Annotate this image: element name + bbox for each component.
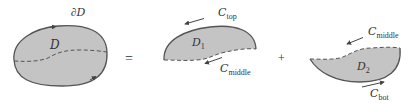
c-bot-label: Cbot bbox=[370, 87, 389, 102]
c-top-arrow-icon bbox=[185, 19, 204, 25]
c-middle-label-d1: Cmiddle bbox=[220, 62, 251, 77]
c-middle-arrow-d2-icon bbox=[347, 38, 363, 45]
region-d-shape bbox=[14, 26, 107, 86]
c-middle-label-d2: Cmiddle bbox=[368, 25, 399, 40]
region-d-label: D bbox=[49, 38, 60, 52]
region-d1: D1 Ctop Cmiddle bbox=[164, 6, 256, 77]
boundary-label: ∂D bbox=[71, 6, 85, 19]
plus-sign: + bbox=[278, 51, 285, 65]
region-d: D ∂D bbox=[14, 6, 107, 86]
region-d2: D2 Cmiddle Cbot bbox=[310, 25, 400, 102]
region-d1-shape bbox=[164, 26, 256, 60]
equals-sign: = bbox=[125, 51, 133, 66]
region-decomposition-diagram: D ∂D = D1 Ctop Cmiddle + D2 bbox=[0, 0, 416, 105]
c-top-label: Ctop bbox=[218, 6, 237, 21]
